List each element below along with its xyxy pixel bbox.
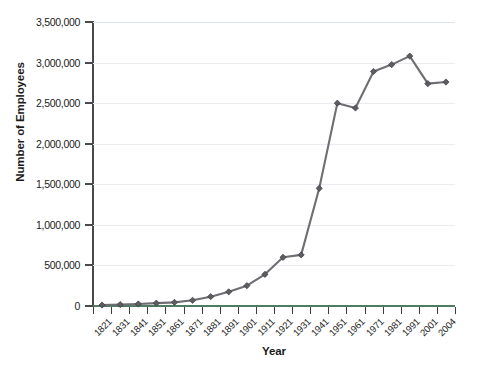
data-series-line [0,0,479,367]
data-point-marker [135,301,141,307]
data-point-marker [298,252,304,258]
data-point-marker [443,79,449,85]
data-point-marker [208,294,214,300]
x-axis-title: Year [93,345,455,357]
employees-by-year-chart: Number of Employees 0500,0001,000,0001,5… [0,0,479,367]
data-point-marker [316,185,322,191]
data-point-marker [189,297,195,303]
data-point-marker [153,300,159,306]
series-polyline [102,56,446,305]
data-point-marker [99,302,105,308]
data-point-marker [117,301,123,307]
data-point-marker [334,100,340,106]
data-point-marker [171,299,177,305]
data-point-marker [226,289,232,295]
